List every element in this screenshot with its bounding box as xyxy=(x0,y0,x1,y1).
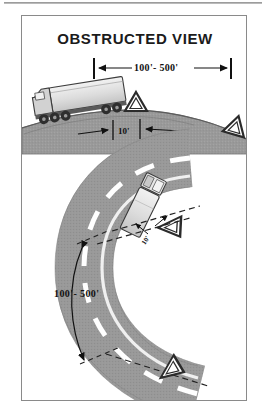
figure-panel: OBSTRUCTED VIEW xyxy=(21,15,247,401)
cab-window xyxy=(35,92,45,100)
warning-triangle-curve-near xyxy=(158,212,192,237)
curve-scene xyxy=(55,129,208,401)
dimension-label-arc-bottom: 100'- 500' xyxy=(54,288,99,299)
page-top-rule xyxy=(4,2,262,4)
diagram-canvas xyxy=(22,16,247,401)
warning-triangle-near xyxy=(125,92,147,111)
dimension-label-short-top: 10' xyxy=(118,126,130,136)
figure-page: OBSTRUCTED VIEW xyxy=(0,0,265,417)
dimension-label-long-top: 100'- 500' xyxy=(134,62,178,73)
